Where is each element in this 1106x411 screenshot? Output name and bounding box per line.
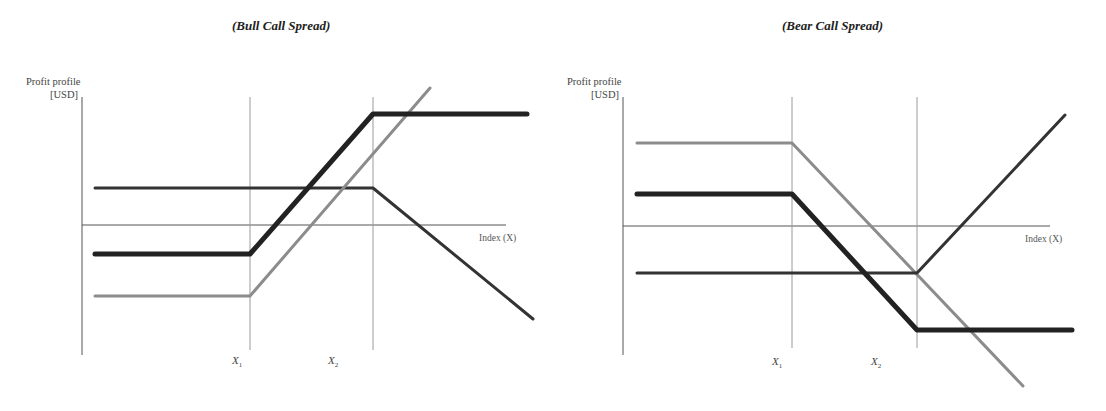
net-payoff-line bbox=[637, 194, 1072, 330]
y-axis-label-line2: [USD] bbox=[26, 88, 78, 101]
chart-title-text: Bull Call Spread bbox=[236, 18, 326, 33]
bear-call-spread-chart: (Bear Call Spread) Profit profile [USD] … bbox=[553, 0, 1106, 411]
chart-title: (Bear Call Spread) bbox=[782, 18, 883, 34]
x1-tick-text: X bbox=[232, 354, 239, 366]
y-axis-label-line1: Profit profile bbox=[26, 75, 78, 88]
y-axis-label-line1: Profit profile bbox=[567, 75, 619, 88]
x2-tick-text: X bbox=[328, 354, 335, 366]
y-axis-label: Profit profile [USD] bbox=[26, 75, 78, 101]
y-axis-label-line2: [USD] bbox=[567, 88, 619, 101]
x1-tick-sub: 1 bbox=[779, 362, 783, 370]
x-axis-label: Index (X) bbox=[479, 233, 516, 243]
bear-call-spread-plot bbox=[553, 0, 1106, 411]
short-call-x1-line bbox=[637, 143, 1023, 386]
x2-tick-label: X2 bbox=[328, 354, 338, 369]
chart-title: (Bull Call Spread) bbox=[232, 18, 330, 34]
x1-tick-label: X1 bbox=[772, 355, 782, 370]
x1-tick-text: X bbox=[772, 355, 779, 367]
chart-title-text: Bear Call Spread bbox=[786, 18, 878, 33]
bull-call-spread-chart: (Bull Call Spread) Profit profile [USD] … bbox=[0, 0, 553, 411]
x1-tick-sub: 1 bbox=[239, 361, 243, 369]
net-payoff-line bbox=[95, 114, 527, 254]
y-axis-label: Profit profile [USD] bbox=[567, 75, 619, 101]
bull-call-spread-plot bbox=[0, 0, 553, 411]
x2-tick-label: X2 bbox=[871, 355, 881, 370]
x-axis-label: Index (X) bbox=[1025, 234, 1062, 244]
x1-tick-label: X1 bbox=[232, 354, 242, 369]
x2-tick-text: X bbox=[871, 355, 878, 367]
x2-tick-sub: 2 bbox=[878, 362, 882, 370]
x2-tick-sub: 2 bbox=[335, 361, 339, 369]
